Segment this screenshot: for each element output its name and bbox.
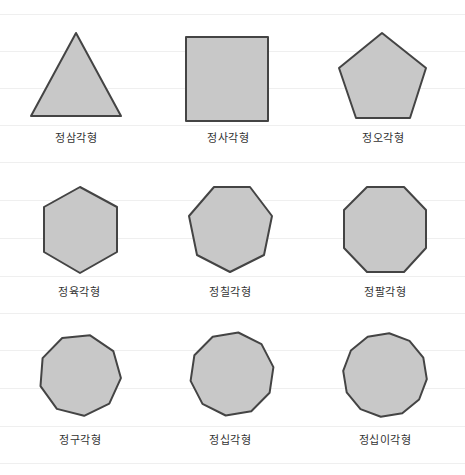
label-regular-decagon: 정십각형 (180, 431, 280, 447)
label-regular-heptagon: 정칠각형 (180, 283, 280, 299)
label-square: 정사각형 (178, 129, 278, 145)
label-regular-nonagon: 정구각형 (30, 431, 130, 447)
square (186, 37, 268, 121)
regular-heptagon (189, 187, 272, 272)
regular-nonagon (41, 335, 121, 416)
regular-pentagon (339, 33, 426, 118)
label-regular-pentagon: 정오각형 (333, 129, 433, 145)
regular-decagon (191, 333, 274, 416)
regular-hexagon (44, 187, 117, 273)
equilateral-triangle (31, 33, 121, 116)
polygons-diagram (0, 0, 465, 475)
label-equilateral-triangle: 정삼각형 (26, 129, 126, 145)
label-regular-octagon: 정팔각형 (335, 283, 435, 299)
regular-dodecagon (343, 333, 427, 417)
regular-octagon (344, 187, 426, 272)
label-regular-dodecagon: 정십이각형 (335, 431, 435, 447)
label-regular-hexagon: 정육각형 (29, 283, 129, 299)
